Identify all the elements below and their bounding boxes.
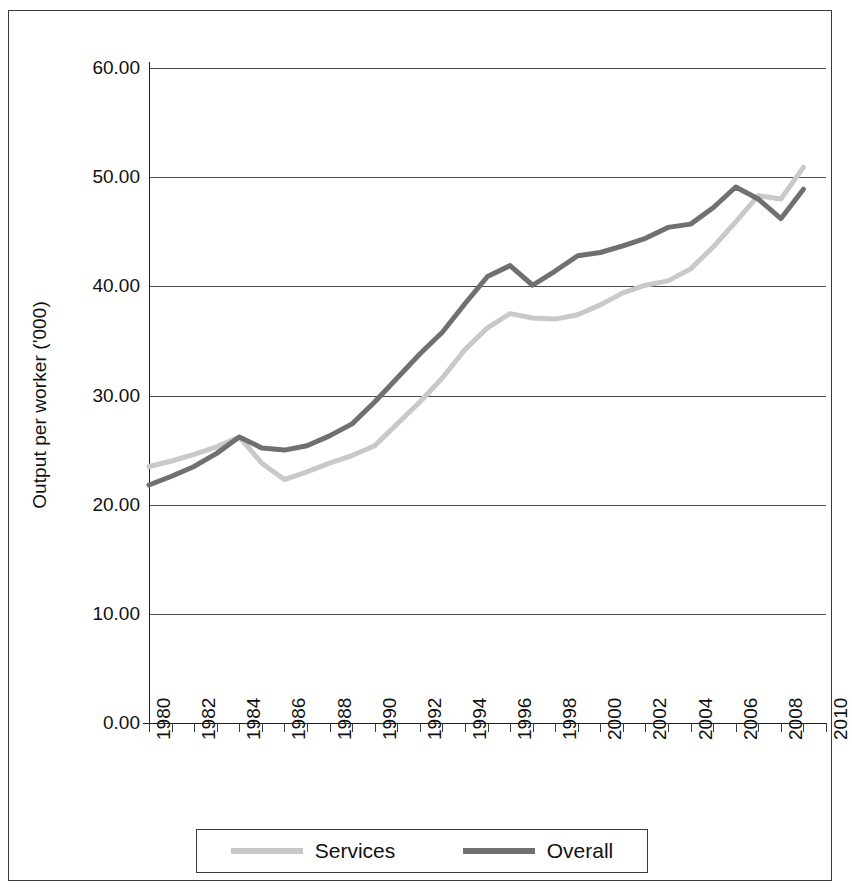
x-tick-label-text: 2000 (604, 733, 626, 740)
x-tick (420, 723, 421, 732)
x-tick-label-text: 2004 (695, 733, 717, 740)
x-tick-label-text: 1996 (514, 733, 536, 740)
x-tick (284, 723, 285, 732)
y-axis-tick-labels: 60.0050.0040.0030.0020.0010.000.00 (52, 0, 140, 893)
x-tick-label: 1986 (273, 733, 295, 813)
chart-legend: ServicesOverall (196, 829, 648, 873)
y-tick-label: 0.00 (54, 712, 140, 734)
x-tick-label-text: 1980 (153, 733, 175, 740)
legend-label: Services (315, 839, 396, 863)
x-tick (510, 723, 511, 732)
x-tick (781, 723, 782, 732)
x-tick (826, 723, 827, 732)
y-axis-title-text: Output per worker ('000) (29, 301, 51, 509)
x-tick-label: 2000 (589, 733, 611, 813)
gridline (149, 286, 826, 287)
gridline (149, 177, 826, 178)
x-tick-label: 1984 (228, 733, 250, 813)
x-tick-label: 1990 (364, 733, 386, 813)
x-tick-label: 1988 (319, 733, 341, 813)
x-tick (736, 723, 737, 732)
x-tick (330, 723, 331, 732)
x-tick-label-text: 1988 (334, 733, 356, 740)
y-tick-label: 30.00 (54, 385, 140, 407)
y-tick-label: 10.00 (54, 603, 140, 625)
x-tick-label: 2010 (815, 733, 837, 813)
y-tick-label: 20.00 (54, 494, 140, 516)
x-tick (149, 723, 150, 732)
y-tick-label: 50.00 (54, 166, 140, 188)
x-tick-label: 1998 (544, 733, 566, 813)
legend-label: Overall (547, 839, 614, 863)
x-tick-label-text: 1990 (379, 733, 401, 740)
gridline (149, 68, 826, 69)
x-tick-label: 2002 (634, 733, 656, 813)
x-tick-label-text: 2002 (649, 733, 671, 740)
legend-swatch (463, 848, 535, 854)
x-tick-label: 1980 (138, 733, 160, 813)
x-tick-label: 1994 (454, 733, 476, 813)
x-tick (375, 723, 376, 732)
gridline (149, 505, 826, 506)
legend-item[interactable]: Services (231, 839, 396, 863)
x-tick (600, 723, 601, 732)
x-tick-label: 2004 (680, 733, 702, 813)
x-tick (194, 723, 195, 732)
legend-item[interactable]: Overall (463, 839, 614, 863)
x-tick (465, 723, 466, 732)
y-axis-line (149, 62, 150, 729)
x-tick-label-text: 2006 (740, 733, 762, 740)
x-tick-label-text: 1982 (198, 733, 220, 740)
x-tick-label: 1996 (499, 733, 521, 813)
x-tick-label-text: 1994 (469, 733, 491, 740)
gridline (149, 396, 826, 397)
x-tick (645, 723, 646, 732)
legend-swatch (231, 848, 303, 854)
y-tick-label: 60.00 (54, 57, 140, 79)
x-tick-label-text: 2010 (830, 733, 852, 740)
x-tick-label: 1992 (409, 733, 431, 813)
gridline (149, 614, 826, 615)
y-axis-title: Output per worker ('000) (26, 255, 54, 555)
x-tick-label: 2006 (725, 733, 747, 813)
x-tick-label-text: 1998 (559, 733, 581, 740)
x-tick (555, 723, 556, 732)
x-tick-label-text: 2008 (785, 733, 807, 740)
x-tick-label-text: 1986 (288, 733, 310, 740)
x-tick-label-text: 1992 (424, 733, 446, 740)
x-tick-label: 2008 (770, 733, 792, 813)
x-tick (691, 723, 692, 732)
x-tick-label-text: 1984 (243, 733, 265, 740)
x-tick-label: 1982 (183, 733, 205, 813)
y-tick-label: 40.00 (54, 275, 140, 297)
plot-grid (149, 68, 826, 723)
x-tick (239, 723, 240, 732)
